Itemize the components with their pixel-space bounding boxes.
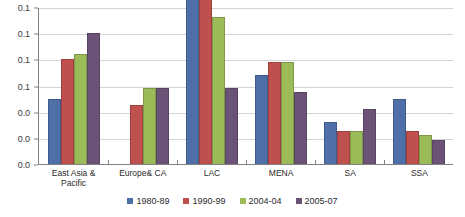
x-axis-category-label: SSA: [385, 168, 454, 188]
x-axis-category-label: East Asia & Pacific: [39, 168, 108, 188]
bar-group: [39, 8, 108, 164]
legend-item[interactable]: 2004-04: [240, 196, 282, 206]
x-axis-category-label: MENA: [247, 168, 316, 188]
x-axis-category-label: Europe& CA: [108, 168, 177, 188]
bar-group: [246, 8, 315, 164]
bar: [143, 88, 156, 164]
bar: [419, 135, 432, 164]
bar-groups: [39, 8, 453, 164]
y-axis: 0.10.10.10.10.00.00.0: [0, 8, 34, 165]
bar: [406, 131, 419, 164]
y-axis-tick-label: 0.0: [18, 108, 30, 118]
bar: [268, 62, 281, 164]
legend-label: 1980-89: [136, 196, 169, 206]
bar: [212, 17, 225, 164]
y-axis-tick-label: 0.1: [18, 3, 30, 13]
bar: [61, 59, 74, 164]
legend-swatch-icon: [240, 198, 246, 204]
legend-swatch-icon: [183, 198, 189, 204]
bar: [199, 0, 212, 164]
x-axis-tick: [315, 160, 316, 164]
x-axis-tick: [177, 160, 178, 164]
plot-area: [38, 8, 453, 165]
legend: 1980-891990-992004-042005-07: [0, 196, 465, 206]
x-axis-labels: East Asia & PacificEurope& CALACMENASASS…: [39, 168, 454, 188]
x-axis-tick: [384, 160, 385, 164]
y-axis-tick-label: 0.1: [18, 82, 30, 92]
bar: [432, 140, 445, 164]
bar: [350, 131, 363, 164]
legend-label: 2004-04: [249, 196, 282, 206]
bar-group: [108, 8, 177, 164]
bar: [156, 88, 169, 164]
bar: [281, 62, 294, 164]
bar: [324, 122, 337, 164]
legend-label: 2005-07: [305, 196, 338, 206]
legend-item[interactable]: 1980-89: [127, 196, 169, 206]
bar: [225, 88, 238, 164]
x-axis-category-label: SA: [316, 168, 385, 188]
y-axis-tick-label: 0.1: [18, 55, 30, 65]
x-axis-tick: [246, 160, 247, 164]
bar: [130, 105, 143, 164]
bar: [337, 131, 350, 164]
legend-item[interactable]: 1990-99: [183, 196, 225, 206]
legend-label: 1990-99: [192, 196, 225, 206]
bar: [186, 0, 199, 164]
y-axis-tick-label: 0.0: [18, 160, 30, 170]
legend-swatch-icon: [296, 198, 302, 204]
y-axis-tick-label: 0.0: [18, 134, 30, 144]
bar: [87, 33, 100, 164]
bar: [363, 109, 376, 164]
x-axis-tick: [108, 160, 109, 164]
bar: [255, 75, 268, 164]
bar: [294, 92, 307, 164]
legend-swatch-icon: [127, 198, 133, 204]
bar-chart: 0.10.10.10.10.00.00.0 East Asia & Pacifi…: [0, 0, 465, 217]
x-axis-category-label: LAC: [177, 168, 246, 188]
bar-group: [384, 8, 453, 164]
legend-item[interactable]: 2005-07: [296, 196, 338, 206]
y-axis-tick-label: 0.1: [18, 29, 30, 39]
bar-group: [315, 8, 384, 164]
x-axis-line: [38, 164, 453, 165]
bar: [48, 99, 61, 164]
bar-group: [177, 8, 246, 164]
bar: [393, 99, 406, 164]
bar: [74, 54, 87, 164]
